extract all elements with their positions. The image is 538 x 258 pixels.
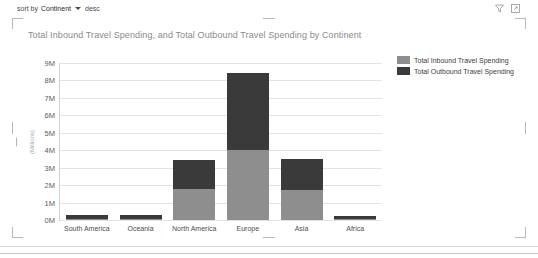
plot-area: (Millions) 0M1M2M3M4M5M6M7M8M9M South Am…: [60, 63, 382, 220]
focus-mode-icon[interactable]: [511, 4, 520, 13]
bar-segment[interactable]: [281, 159, 323, 190]
value-axis-tick-label: 3M: [45, 163, 55, 172]
bar-slot: Europe: [221, 63, 275, 220]
frame-corner-top-right: [515, 18, 526, 29]
value-axis-tick-label: 2M: [45, 181, 55, 190]
bar-segment[interactable]: [120, 219, 162, 220]
frame-corner-bottom-left: [12, 227, 23, 238]
category-axis-label: North America: [172, 225, 216, 232]
category-axis-label: South America: [64, 225, 110, 232]
frame-handle-top[interactable]: [263, 18, 275, 19]
bar-stack[interactable]: [120, 215, 162, 220]
bar-segment[interactable]: [227, 150, 269, 220]
chart-legend: Total Inbound Travel SpendingTotal Outbo…: [397, 56, 514, 75]
legend-item[interactable]: Total Outbound Travel Spending: [397, 67, 514, 75]
section-divider-lower: [0, 253, 538, 254]
value-axis-tick-label: 5M: [45, 128, 55, 137]
bar-slot: Africa: [328, 63, 382, 220]
bar-segment[interactable]: [66, 219, 108, 220]
chevron-down-icon[interactable]: [75, 7, 81, 10]
legend-label: Total Outbound Travel Spending: [414, 68, 514, 75]
value-axis-marker: [16, 137, 17, 146]
frame-handle-left[interactable]: [12, 122, 13, 134]
bar-stack[interactable]: [334, 216, 376, 220]
legend-swatch: [397, 67, 410, 75]
bar-stack[interactable]: [227, 73, 269, 220]
chart-container: Total Inbound Travel Spending, and Total…: [12, 18, 526, 238]
bar-stack[interactable]: [281, 159, 323, 220]
sort-control[interactable]: sort by Continent desc: [17, 5, 100, 12]
value-axis-tick-label: 1M: [45, 198, 55, 207]
value-axis-tick-label: 8M: [45, 76, 55, 85]
chart-widget: sort by Continent desc Total Inbound Tra…: [10, 2, 528, 240]
legend-label: Total Inbound Travel Spending: [414, 57, 509, 64]
frame-handle-right[interactable]: [525, 122, 526, 134]
bar-slot: North America: [167, 63, 221, 220]
legend-swatch: [397, 56, 410, 64]
category-axis-label: Europe: [237, 225, 260, 232]
frame-handle-bottom[interactable]: [263, 237, 275, 238]
value-axis-tick-label: 9M: [45, 59, 55, 68]
bar-segment[interactable]: [334, 219, 376, 220]
legend-item[interactable]: Total Inbound Travel Spending: [397, 56, 514, 64]
value-axis-title: (Millions): [29, 130, 35, 154]
sort-direction-value[interactable]: desc: [85, 5, 100, 12]
filter-icon[interactable]: [495, 4, 504, 13]
value-axis-tick-label: 0M: [45, 216, 55, 225]
toolbar-icon-group: [495, 4, 520, 13]
category-axis-label: Oceania: [127, 225, 153, 232]
bar-segment[interactable]: [173, 189, 215, 220]
bar-segment[interactable]: [281, 190, 323, 220]
sort-field-value[interactable]: Continent: [41, 5, 71, 12]
bar-slot: South America: [60, 63, 114, 220]
bar-slot: Oceania: [114, 63, 168, 220]
section-divider-upper: [0, 246, 538, 247]
chart-title: Total Inbound Travel Spending, and Total…: [28, 30, 361, 40]
value-axis-tick-label: 7M: [45, 93, 55, 102]
bar-group: South AmericaOceaniaNorth AmericaEuropeA…: [60, 63, 382, 220]
gridline: [60, 220, 382, 221]
sort-prefix-label: sort by: [17, 5, 38, 12]
value-axis-tick-label: 4M: [45, 146, 55, 155]
value-axis-tick-label: 6M: [45, 111, 55, 120]
bar-segment[interactable]: [227, 73, 269, 150]
category-axis-label: Asia: [295, 225, 309, 232]
frame-corner-top-left: [12, 18, 23, 29]
bar-segment[interactable]: [173, 160, 215, 189]
bar-stack[interactable]: [66, 215, 108, 220]
frame-corner-bottom-right: [515, 227, 526, 238]
bar-stack[interactable]: [173, 160, 215, 220]
bar-slot: Asia: [275, 63, 329, 220]
category-axis-label: Africa: [346, 225, 364, 232]
